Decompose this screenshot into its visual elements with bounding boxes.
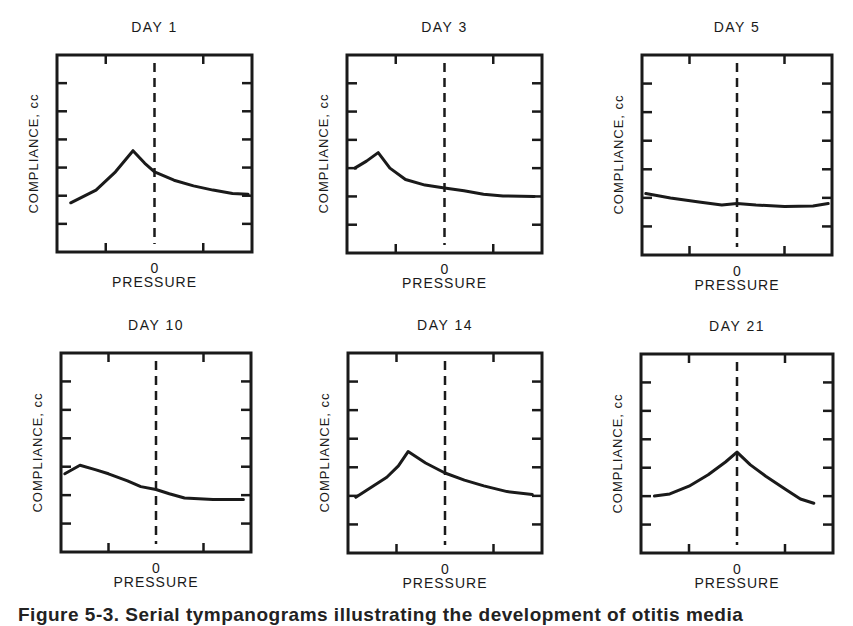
plot-area <box>348 353 542 553</box>
panel-title: DAY 1 <box>95 19 215 35</box>
x-axis-label: PRESSURE <box>385 275 505 291</box>
y-axis-label: COMPLIANCE, cc <box>317 373 332 533</box>
plot-area <box>347 55 542 253</box>
figure-caption: Figure 5-3. Serial tympanograms illustra… <box>18 604 743 626</box>
x-axis-label: PRESSURE <box>96 574 216 590</box>
compliance-curve <box>65 465 244 499</box>
panel-title: DAY 3 <box>385 19 505 35</box>
plot-area <box>57 55 252 252</box>
y-axis-label: COMPLIANCE, cc <box>26 73 41 233</box>
plot-area <box>641 354 833 553</box>
panel-title: DAY 5 <box>677 19 797 35</box>
plot-area <box>642 55 832 255</box>
x-axis-label: PRESSURE <box>677 277 797 293</box>
y-axis-label: COMPLIANCE, cc <box>316 74 331 234</box>
y-axis-label: COMPLIANCE, cc <box>610 373 625 533</box>
panel-title: DAY 10 <box>96 317 216 333</box>
panel-title: DAY 14 <box>385 317 505 333</box>
plot-area <box>61 353 251 552</box>
y-axis-label: COMPLIANCE, cc <box>30 372 45 532</box>
panel-title: DAY 21 <box>677 318 797 334</box>
compliance-curve <box>654 452 813 503</box>
compliance-curve <box>71 151 248 203</box>
x-axis-label: PRESSURE <box>385 575 505 591</box>
x-axis-label: PRESSURE <box>677 575 797 591</box>
y-axis-label: COMPLIANCE, cc <box>611 75 626 235</box>
x-axis-label: PRESSURE <box>95 274 215 290</box>
